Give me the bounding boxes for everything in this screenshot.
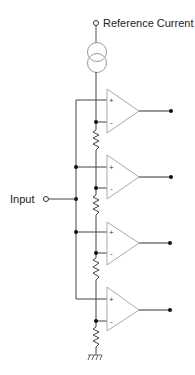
output-node [169, 109, 173, 113]
circuit-schematic: Reference Current [0, 0, 195, 375]
svg-text:-: - [110, 249, 113, 258]
input-label: Input [10, 193, 34, 205]
svg-text:-: - [110, 118, 113, 127]
output-node [168, 308, 172, 312]
comparator-2: + - [107, 155, 173, 199]
reference-terminal [94, 21, 99, 26]
junction-dots [74, 120, 98, 323]
resistor-icon [93, 258, 99, 280]
input-terminal [44, 197, 49, 202]
svg-text:-: - [110, 317, 113, 326]
svg-text:+: + [109, 96, 114, 105]
resistor-icon [93, 327, 99, 347]
reference-current-label: Reference Current [103, 17, 194, 29]
resistor-icon [93, 130, 99, 150]
comparator-1: + - [107, 89, 173, 133]
minus-taps [96, 122, 107, 321]
ground-icon [88, 355, 102, 360]
svg-text:-: - [110, 184, 113, 193]
resistor-icon [93, 195, 99, 215]
svg-text:+: + [109, 163, 114, 172]
output-node [169, 175, 173, 179]
current-source-icon [88, 43, 107, 73]
output-node [168, 241, 172, 245]
input-rail [76, 100, 107, 299]
svg-text:+: + [109, 295, 114, 304]
comparator-3: + - [107, 222, 172, 265]
svg-text:+: + [109, 228, 114, 237]
comparator-4: + - [107, 287, 172, 331]
